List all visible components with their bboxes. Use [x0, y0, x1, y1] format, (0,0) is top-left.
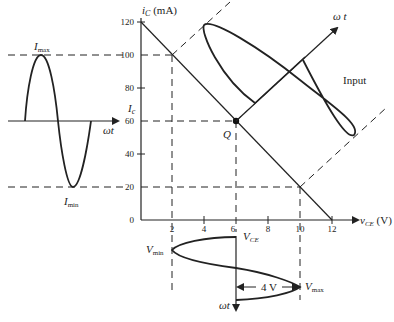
load-line-diagram: 0 20 40 60 80 100 120 2 4 6 8 10 12 iC (… — [0, 0, 394, 322]
svg-text:20: 20 — [125, 182, 135, 192]
omega-t-left-label: ωt — [103, 124, 115, 136]
dashed-guides — [8, 2, 386, 300]
imin-label: Imin — [63, 195, 79, 209]
amplitude-label: 4 V — [261, 281, 277, 293]
svg-text:80: 80 — [125, 83, 135, 93]
svg-text:0: 0 — [130, 215, 135, 225]
svg-text:60: 60 — [125, 116, 135, 126]
vmax-label: Vmax — [305, 280, 324, 294]
ic-label: Ic — [127, 102, 136, 116]
omega-t-bottom-label: ωt — [219, 299, 231, 311]
svg-text:4: 4 — [202, 224, 207, 234]
omega-t-diag-label: ω t — [333, 10, 348, 22]
q-label: Q — [223, 128, 231, 140]
svg-text:12: 12 — [328, 224, 337, 234]
vmin-label: Vmin — [146, 243, 164, 257]
svg-text:8: 8 — [266, 224, 271, 234]
vce-label: VCE — [243, 230, 259, 244]
input-label: Input — [343, 74, 366, 86]
svg-text:120: 120 — [121, 17, 135, 27]
svg-text:40: 40 — [125, 149, 135, 159]
x-tick-labels: 2 4 6 8 10 12 — [170, 224, 337, 234]
y-axis-title: iC (mA) — [142, 4, 177, 18]
x-axis-title: vCE (V) — [360, 214, 392, 228]
y-tick-labels: 0 20 40 60 80 100 120 — [121, 17, 135, 225]
svg-text:6: 6 — [231, 224, 236, 234]
axes — [141, 18, 358, 220]
imax-label: Imax — [33, 40, 50, 54]
input-waveform — [203, 24, 355, 136]
